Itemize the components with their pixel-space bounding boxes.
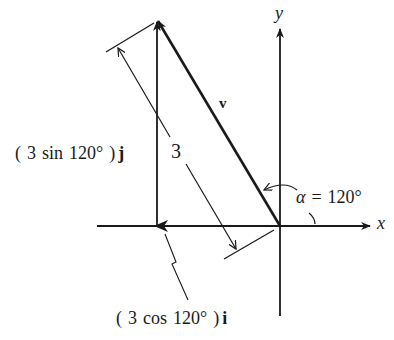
dimension-extension-lines — [106, 23, 274, 259]
argument: 120° — [173, 308, 207, 328]
angle-symbol: α — [296, 187, 305, 207]
unit-vector-i: i — [222, 308, 227, 328]
x-axis-label: x — [377, 214, 385, 232]
angle-value: 120° — [328, 187, 362, 207]
vector-v — [158, 21, 280, 226]
function: sin — [42, 143, 63, 163]
coefficient: 3 — [128, 308, 137, 328]
paren-open: ( — [15, 143, 21, 163]
argument: 120° — [69, 143, 103, 163]
paren-open: ( — [116, 308, 122, 328]
angle-label: α=120° — [296, 188, 362, 206]
function: cos — [143, 308, 167, 328]
horizontal-component-label: (3cos120°)i — [116, 309, 227, 327]
unit-vector-j: j — [118, 143, 124, 163]
vector-label: v — [219, 96, 227, 111]
angle-equals: = — [311, 187, 321, 207]
magnitude-label: 3 — [171, 141, 181, 161]
paren-close: ) — [109, 143, 115, 163]
coefficient: 3 — [27, 143, 36, 163]
diagram-graphics — [0, 0, 394, 340]
y-axis-label: y — [275, 4, 283, 22]
paren-close: ) — [213, 308, 219, 328]
horizontal-component-leader — [165, 234, 188, 300]
vector-diagram: y x v 3 α=120° (3sin120°)j (3cos120°)i — [0, 0, 394, 340]
vertical-component-label: (3sin120°)j — [15, 144, 124, 162]
